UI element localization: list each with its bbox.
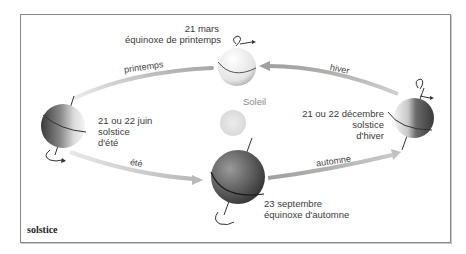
globe-summer-solstice — [41, 96, 86, 163]
summer-solstice-line2: solstice — [98, 126, 152, 137]
arrow-spring — [75, 68, 212, 98]
globe-winter-solstice — [388, 79, 434, 150]
summer-solstice-date: 21 ou 22 juin — [98, 115, 152, 126]
autumn-equinox-label: 23 septembre équinoxe d'automne — [264, 198, 349, 220]
summer-solstice-label: 21 ou 22 juin solstice d'été — [98, 115, 152, 148]
winter-solstice-line2: solstice — [300, 119, 384, 130]
globe-autumn-equinox — [211, 138, 265, 225]
spring-equinox-label: 21 mars équinoxe de printemps — [125, 23, 219, 45]
spring-equinox-name: équinoxe de printemps — [125, 34, 219, 45]
winter-solstice-line3: d'hiver — [300, 130, 384, 141]
sun-label: Soleil — [243, 96, 266, 107]
autumn-equinox-date: 23 septembre — [264, 198, 349, 209]
winter-solstice-date: 21 ou 22 décembre — [300, 108, 384, 119]
arrow-winter — [259, 61, 398, 94]
autumn-equinox-name: équinoxe d'automne — [264, 209, 349, 220]
orbit-diagram — [0, 0, 466, 254]
winter-solstice-label: 21 ou 22 décembre solstice d'hiver — [300, 108, 384, 141]
arrow-summer — [70, 152, 203, 185]
season-summer-label: été — [129, 157, 143, 169]
globe-spring-equinox — [218, 36, 256, 86]
sun-icon — [220, 110, 246, 136]
spring-equinox-date: 21 mars — [125, 23, 219, 34]
figure-caption: solstice — [27, 224, 58, 235]
summer-solstice-line3: d'été — [98, 137, 152, 148]
